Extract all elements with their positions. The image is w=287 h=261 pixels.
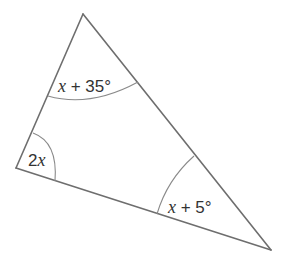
triangle-edges: [16, 14, 271, 250]
angle-label-top: x + 35°: [57, 76, 111, 96]
edge-left-right: [16, 168, 271, 250]
triangle-diagram: x + 35° 2x x + 5°: [0, 0, 287, 261]
angle-label-left: 2x: [28, 150, 45, 170]
angle-label-right: x + 5°: [167, 197, 212, 217]
